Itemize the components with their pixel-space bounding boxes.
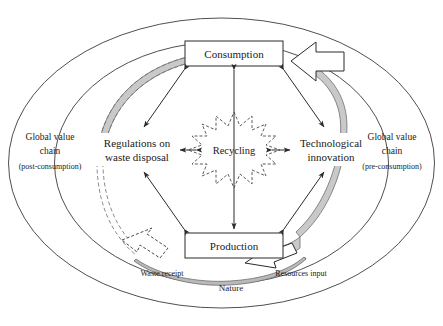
waste-receipt-label: Waste receipt [140, 269, 184, 278]
technological-label-line1: Technological [300, 137, 362, 149]
ring-left-line2: chain [40, 146, 61, 156]
arrow-production-regulations [144, 172, 184, 229]
node-regulations[interactable]: Regulations on waste disposal [96, 133, 178, 166]
resources-input-label: Resources input [275, 269, 327, 278]
recycling-label: Recycling [213, 145, 256, 156]
nature-label: Nature [219, 283, 244, 293]
ring-right-line3: (pre-consumption) [362, 162, 422, 171]
node-consumption[interactable]: Consumption [185, 41, 283, 66]
node-production[interactable]: Production [185, 233, 283, 258]
regulations-label-line1: Regulations on [104, 137, 171, 149]
ring-left-line1: Global value [26, 132, 75, 142]
ring-right-line1: Global value [368, 132, 417, 142]
waste-receipt-arrow-shape [122, 228, 168, 258]
ring-left-line3: (post-consumption) [19, 162, 82, 171]
node-technological-innovation[interactable]: Technological innovation [292, 133, 372, 166]
production-label: Production [210, 240, 259, 252]
diagram-canvas: Consumption Production Regulations on wa… [0, 0, 443, 326]
regulations-label-line2: waste disposal [105, 151, 169, 163]
waste-receipt-arrow [122, 228, 168, 258]
ring-right-line2: chain [382, 146, 403, 156]
circular-economy-diagram: Consumption Production Regulations on wa… [0, 0, 443, 326]
consumption-label: Consumption [204, 48, 264, 60]
arrow-production-technological [284, 172, 324, 229]
arrow-consumption-technological [284, 70, 324, 127]
ring-label-left: Global value chain (post-consumption) [19, 132, 82, 171]
technological-label-line2: innovation [307, 151, 355, 163]
